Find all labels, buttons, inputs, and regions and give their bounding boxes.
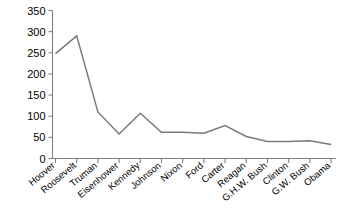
y-tick-label: 250 [27, 47, 45, 59]
y-tick-label: 300 [27, 26, 45, 38]
y-tick-label: 150 [27, 89, 45, 101]
line-chart: 050100150200250300350 HooverRooseveltTru… [0, 0, 346, 223]
y-tick-label: 200 [27, 68, 45, 80]
y-tick-label: 50 [33, 131, 45, 143]
y-tick-label: 350 [27, 5, 45, 17]
chart-canvas: 050100150200250300350 HooverRooseveltTru… [0, 0, 346, 223]
y-tick-label: 100 [27, 110, 45, 122]
